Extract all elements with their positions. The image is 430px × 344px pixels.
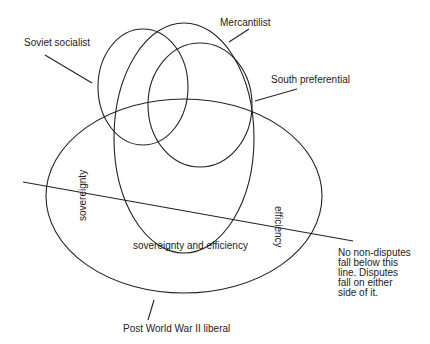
south-preferential-leader [255, 89, 297, 101]
post-wwii-liberal-label: Post World War II liberal [123, 323, 230, 334]
mercantilist-leader [229, 29, 249, 42]
soviet-socialist-ellipse [98, 29, 188, 145]
mercantilist-label: Mercantilist [220, 17, 271, 28]
soviet-socialist-leader [45, 55, 92, 83]
dispute-threshold-line [23, 182, 353, 241]
soviet-socialist-label: Soviet socialist [24, 37, 90, 48]
south-preferential-label: South preferential [271, 74, 350, 85]
sovereignty-region-label: sovereignty [77, 170, 88, 221]
post-wwii-liberal-leader [148, 300, 154, 320]
sovereignty-and-efficiency-label: sovereignty and efficiency [133, 240, 248, 251]
note-line: side of it. [338, 288, 428, 298]
dispute-line-note: No non-disputes fall below this line. Di… [338, 248, 428, 298]
efficiency-region-label: efficiency [273, 206, 284, 248]
